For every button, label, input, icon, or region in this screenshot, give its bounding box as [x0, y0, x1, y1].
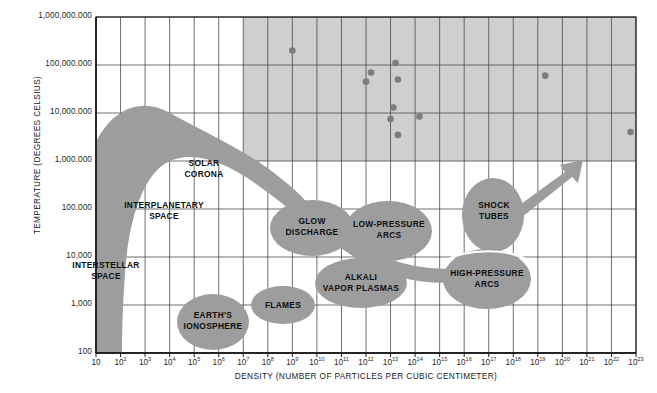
region-label-line: ARCS [377, 230, 402, 240]
region-label-line: EARTH'S [194, 310, 233, 320]
region-label-line: FLAMES [265, 300, 301, 310]
region-label-line: SHOCK [478, 200, 510, 210]
region-label-line: CORONA [184, 169, 223, 179]
scatter-point [363, 78, 370, 85]
region-label-line: ALKALI [345, 272, 378, 282]
region-label: SHOCKTUBES [478, 200, 510, 221]
scatter-point [368, 69, 375, 76]
region-label-line: SOLAR [189, 158, 220, 168]
scatter-point [416, 113, 423, 120]
region-label-line: HIGH-PRESSURE [450, 268, 524, 278]
region-label-line: DISCHARGE [286, 227, 339, 237]
region-label-line: ARCS [475, 279, 500, 289]
scatter-point [395, 132, 402, 139]
plasma-chart-page: TEMPERATURE (DEGREES CELSIUS) DENSITY (N… [0, 0, 657, 393]
region-label-line: TUBES [479, 211, 509, 221]
scatter-point [392, 60, 399, 67]
region-label-line: VAPOR PLASMAS [323, 283, 399, 293]
scatter-point [395, 76, 402, 83]
region-label: FLAMES [265, 300, 301, 310]
region-label-line: LOW-PRESSURE [353, 219, 425, 229]
region-label-line: IONOSPHERE [184, 321, 243, 331]
scatter-point [289, 47, 296, 54]
region-label: SOLARCORONA [184, 158, 223, 179]
scatter-point [627, 129, 634, 136]
region-label-line: GLOW [298, 216, 325, 226]
region-label-line: SPACE [149, 211, 179, 221]
chart-plot-area: INTERSTELLARSPACEINTERPLANETARYSPACESOLA… [0, 0, 657, 393]
scatter-point [387, 116, 394, 123]
region-label-line: INTERSTELLAR [72, 260, 139, 270]
scatter-point [390, 104, 397, 111]
region-label-line: INTERPLANETARY [124, 200, 204, 210]
scatter-point [542, 72, 549, 79]
